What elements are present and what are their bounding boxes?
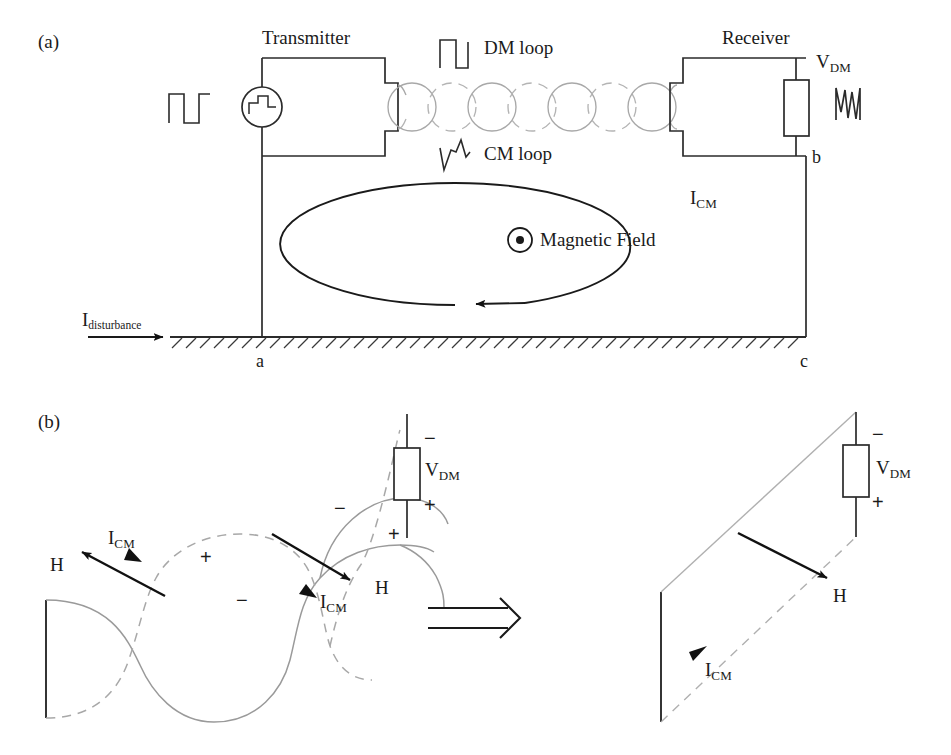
h-field-arrow-middle [272,534,350,580]
polarity-minus-right: − [872,424,884,444]
idisturbance-subscript: disturbance [88,319,141,331]
polarity-minus-2: − [334,498,346,518]
h-label-pb-right: H [833,586,847,605]
twisted-pair-cable [388,83,677,131]
figure-canvas [0,0,951,755]
h-field-arrow-right [738,533,827,578]
transient-spike-icon-cm [440,140,470,170]
polarity-plus-right: + [872,492,884,512]
h-label-pb-left-2: H [375,578,389,597]
panel-a-graphics [88,40,860,348]
icm-subscript: CM [114,536,135,551]
vdm-resistor-panel-a [784,58,809,156]
vdm-symbol: V [876,457,890,478]
icm-label-pb-right: ICM [705,660,732,682]
ground-plane [170,337,806,348]
panel-b-tag: (b) [38,412,60,431]
vdm-symbol: V [816,51,830,72]
node-c-label: c [800,352,808,370]
polarity-minus-1: − [236,590,248,610]
icm-label-pb-left-1: ICM [108,528,135,550]
receiver-label: Receiver [722,28,790,47]
polarity-minus-3: − [424,428,436,448]
vdm-subscript: DM [439,468,460,483]
polarity-plus-3: + [424,495,436,515]
icm-subscript: CM [696,196,717,211]
h-label-pb-left-1: H [50,555,64,574]
node-a-label: a [256,352,264,370]
magnetic-field-label: Magnetic Field [540,230,656,249]
icm-subscript: CM [711,668,732,683]
cm-loop-label: CM loop [484,144,552,163]
polarity-plus-2: + [388,524,400,544]
vdm-symbol: V [425,459,439,480]
vdm-resistor-panel-b-left [394,414,420,538]
pb-left-conductor-solid-to-plus [400,545,444,608]
vdm-subscript: DM [890,466,911,481]
vdm-label-panel-a: VDM [816,52,851,74]
square-pulse-icon-dm [440,40,468,68]
vdm-label-pb-right: VDM [876,458,911,480]
source-symbol [242,87,282,127]
vdm-resistor-panel-b-right [843,412,869,537]
icm-label-panel-a: ICM [690,188,717,210]
transmitter-label: Transmitter [262,28,350,47]
polarity-plus-1: + [200,547,212,567]
implies-arrow-icon [428,598,520,638]
vdm-label-pb-left: VDM [425,460,460,482]
magnetic-field-dot-icon [508,228,532,252]
panel-b-right-graphics [661,412,869,722]
icm-label-pb-left-2: ICM [320,592,347,614]
h-field-arrow-left [82,552,165,596]
figure-root: (a) Transmitter Receiver DM loop CM loop… [0,0,951,755]
panel-a-tag: (a) [38,32,59,51]
noisy-signal-icon [836,88,860,120]
vdm-subscript: DM [830,60,851,75]
pb-left-conductor-solid [46,545,434,722]
square-pulse-icon-source [169,94,210,123]
idisturbance-label: Idisturbance [82,310,141,331]
dm-loop-label: DM loop [484,38,553,57]
ground-drop-wires [262,156,806,337]
icm-subscript: CM [326,600,347,615]
node-b-label: b [812,148,821,166]
